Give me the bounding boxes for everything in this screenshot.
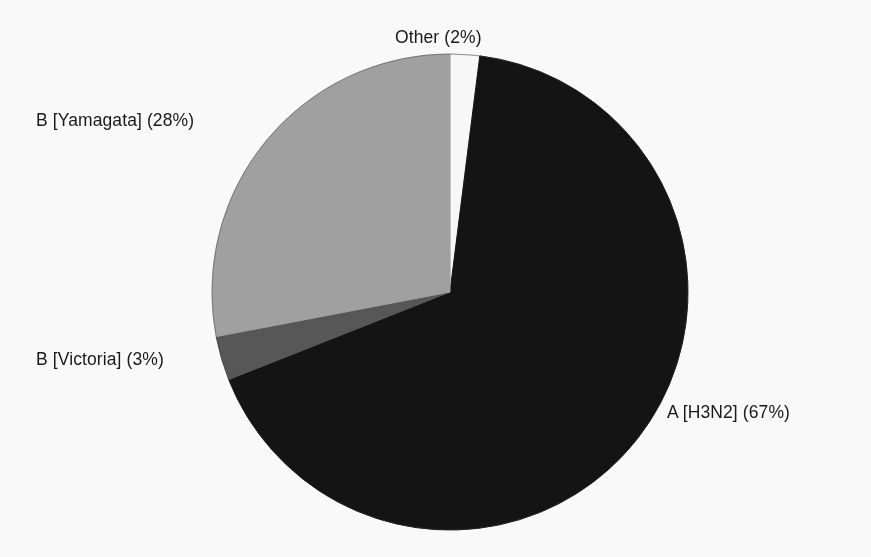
slice-label-other: Other (2%) [395, 27, 482, 47]
slice-label-b-victoria: B [Victoria] (3%) [36, 349, 164, 369]
slice-label-b-yamagata: B [Yamagata] (28%) [36, 110, 194, 130]
pie-chart-svg [0, 0, 871, 557]
pie-chart-figure: Other (2%) B [Yamagata] (28%) B [Victori… [0, 0, 871, 557]
chart-plot-area: Other (2%) B [Yamagata] (28%) B [Victori… [0, 0, 871, 557]
slice-label-a-h3n2: A [H3N2] (67%) [667, 402, 790, 422]
pie-slice-b-yamagata[interactable] [212, 54, 450, 337]
